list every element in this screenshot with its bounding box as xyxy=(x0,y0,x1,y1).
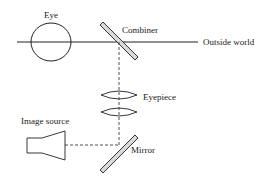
image-source-label: Image source xyxy=(21,116,69,126)
eye-label: Eye xyxy=(44,10,58,20)
image-source-shape xyxy=(27,131,65,160)
hud-optics-diagram: Eye Combiner Outside world Eyepiece Mirr… xyxy=(0,0,266,176)
combiner-label: Combiner xyxy=(122,25,158,35)
mirror-label: Mirror xyxy=(131,145,155,155)
outside-world-label: Outside world xyxy=(203,37,255,47)
eyepiece-label: Eyepiece xyxy=(143,92,176,102)
